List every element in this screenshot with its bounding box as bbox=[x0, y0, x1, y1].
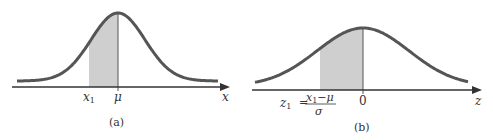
panel-b: z1 = x1−μ σ 0 z (b) bbox=[252, 28, 482, 134]
fraction-numerator: x1−μ bbox=[306, 91, 334, 105]
figure-canvas: x1 μ x (a) z1 = x1−μ σ 0 z (b) bbox=[0, 0, 493, 140]
axis-label-z: z bbox=[474, 94, 482, 108]
panel-a: x1 μ x (a) bbox=[12, 13, 230, 129]
tick-label-mu: μ bbox=[114, 90, 122, 104]
tick-label-zero: 0 bbox=[359, 94, 367, 108]
caption-a: (a) bbox=[109, 116, 124, 129]
axis-arrow-b bbox=[472, 86, 482, 94]
tick-label-z1: z1 bbox=[279, 96, 291, 111]
shaded-area-b bbox=[320, 28, 363, 90]
fraction-denominator: σ bbox=[315, 105, 323, 118]
axis-label-x: x bbox=[222, 90, 229, 104]
tick-label-x1: x1 bbox=[83, 90, 95, 105]
caption-b: (b) bbox=[354, 121, 370, 134]
